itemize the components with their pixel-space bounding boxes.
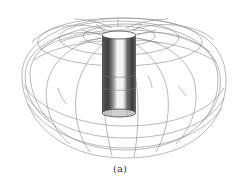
figure: (a)	[0, 0, 240, 184]
central-cylinder	[102, 31, 136, 117]
wireframe-diagram	[0, 0, 240, 184]
figure-caption: (a)	[0, 163, 240, 174]
